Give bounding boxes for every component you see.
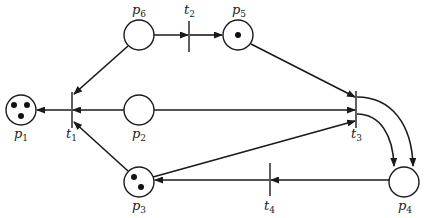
token [138,184,144,190]
places [6,20,419,197]
arc-p3-t3 [153,121,355,177]
arc-t3-p4-inner [357,114,394,166]
label-t4: t4 [264,198,275,215]
label-t2: t2 [184,2,195,19]
label-t1: t1 [66,126,77,143]
token [24,102,30,108]
label-t3: t3 [351,126,362,143]
token [11,102,17,108]
place-p4 [389,167,419,197]
label-p2: p2 [132,126,146,143]
labels: p1 p2 p3 p4 p5 p6 t1 t2 t3 t4 [14,2,412,215]
token [131,174,137,180]
petri-net-diagram: p1 p2 p3 p4 p5 p6 t1 t2 t3 t4 [0,0,424,218]
transitions [72,21,356,196]
label-p6: p6 [132,2,146,19]
label-p5: p5 [232,2,246,19]
label-p1: p1 [14,126,28,143]
arc-p5-t3 [251,44,355,97]
token [235,32,241,38]
arc-p3-t1 [74,122,128,171]
place-p2 [124,95,154,125]
token [18,113,24,119]
place-p5 [223,20,253,50]
place-p3 [124,167,154,197]
label-p4: p4 [398,198,412,215]
arc-p6-t1 [74,46,128,94]
place-p1 [6,95,36,125]
place-p6 [124,20,154,50]
label-p3: p3 [132,198,146,215]
